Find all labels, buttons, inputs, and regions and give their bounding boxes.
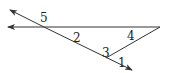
angle-2-label: 2: [73, 31, 81, 45]
angle-4-label: 4: [127, 29, 135, 43]
transversal-ray-upper: [10, 10, 44, 27]
angle-5-label: 5: [40, 11, 48, 25]
angle-diagram: 5 2 4 3 1: [0, 0, 170, 73]
angle-3-label: 3: [102, 46, 110, 60]
angle-1-label: 1: [118, 56, 126, 70]
